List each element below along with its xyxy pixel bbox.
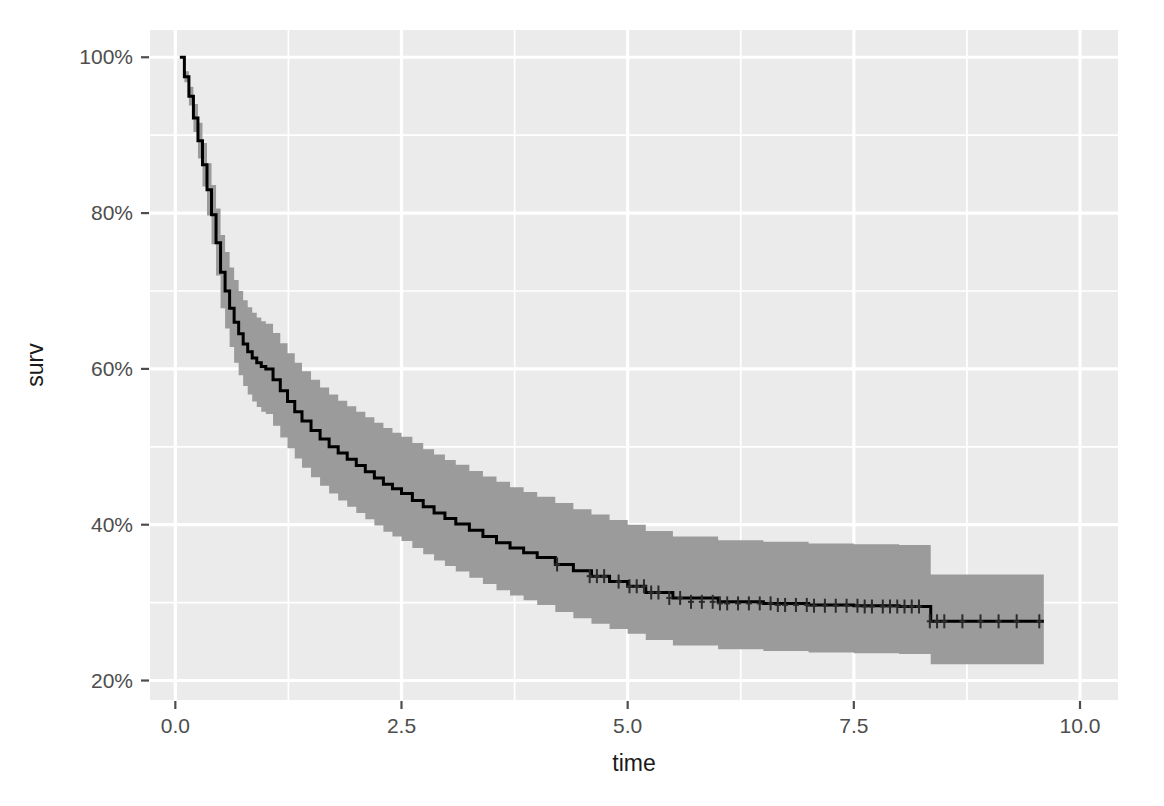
- y-tick-label: 60%: [91, 357, 133, 380]
- x-tick-label: 2.5: [387, 714, 416, 737]
- y-tick-label: 40%: [91, 513, 133, 536]
- x-tick-label: 0.0: [161, 714, 190, 737]
- y-axis-title: surv: [22, 343, 48, 387]
- y-tick-label: 80%: [91, 201, 133, 224]
- x-tick-label: 5.0: [613, 714, 642, 737]
- survival-chart-figure: 100%80%60%40%20% 0.02.55.07.510.0 surv t…: [0, 0, 1164, 806]
- x-tick-label: 10.0: [1060, 714, 1101, 737]
- x-axis-title: time: [612, 750, 655, 776]
- x-tick-label: 7.5: [839, 714, 868, 737]
- y-tick-label: 100%: [79, 45, 133, 68]
- y-tick-label: 20%: [91, 669, 133, 692]
- survival-plot-svg: 100%80%60%40%20% 0.02.55.07.510.0 surv t…: [0, 0, 1164, 806]
